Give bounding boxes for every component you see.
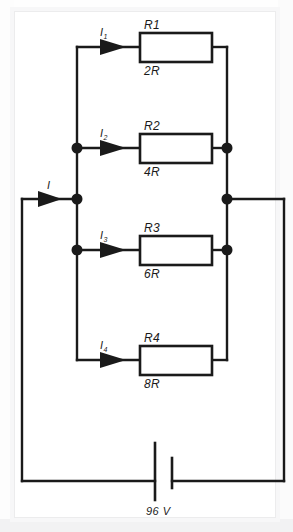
current-label-i3-sub: 3 — [104, 236, 108, 243]
resistor-box-r4 — [140, 346, 212, 375]
current-arrow-i2 — [100, 140, 126, 156]
junction-dot-right-main — [222, 194, 233, 205]
current-label-i2: I2 — [100, 127, 107, 139]
resistor-value-r1: 2R — [144, 64, 160, 78]
junction-dot-left-b2 — [72, 143, 83, 154]
battery-voltage-label: 96 V — [146, 505, 171, 517]
resistor-value-r3: 6R — [144, 267, 160, 281]
current-label-i2-sub: 2 — [104, 134, 108, 141]
current-label-main-text: I — [47, 179, 50, 191]
circuit-schematic — [0, 0, 293, 532]
current-label-i1-text: I — [100, 26, 103, 38]
diagram-canvas: I I1 R1 2R I2 R2 4R I3 R3 6R I4 R4 8R 96… — [0, 0, 293, 532]
resistor-label-r2: R2 — [144, 119, 160, 133]
current-arrow-main — [38, 191, 62, 207]
resistor-box-r3 — [140, 236, 212, 265]
resistor-box-r2 — [140, 134, 212, 163]
junction-dot-left-b3 — [72, 245, 83, 256]
resistor-label-r3: R3 — [144, 221, 160, 235]
junction-dot-right-b3 — [222, 245, 233, 256]
current-label-i3: I3 — [100, 229, 107, 241]
junction-dot-right-b2 — [222, 143, 233, 154]
current-label-main: I — [47, 179, 50, 191]
resistor-label-r1: R1 — [144, 18, 160, 32]
resistor-box-r1 — [140, 33, 212, 62]
current-arrow-i4 — [100, 352, 126, 368]
current-label-i4: I4 — [100, 339, 107, 351]
current-arrow-i1 — [100, 39, 126, 55]
current-label-i1-sub: 1 — [104, 33, 108, 40]
current-arrow-i3 — [100, 242, 126, 258]
resistor-value-r4: 8R — [144, 377, 160, 391]
current-label-i3-text: I — [100, 229, 103, 241]
current-label-i2-text: I — [100, 127, 103, 139]
resistor-label-r4: R4 — [144, 331, 160, 345]
current-label-i1: I1 — [100, 26, 107, 38]
current-label-i4-sub: 4 — [104, 346, 108, 353]
junction-dot-left-main — [72, 194, 83, 205]
resistor-value-r2: 4R — [144, 165, 160, 179]
current-label-i4-text: I — [100, 339, 103, 351]
